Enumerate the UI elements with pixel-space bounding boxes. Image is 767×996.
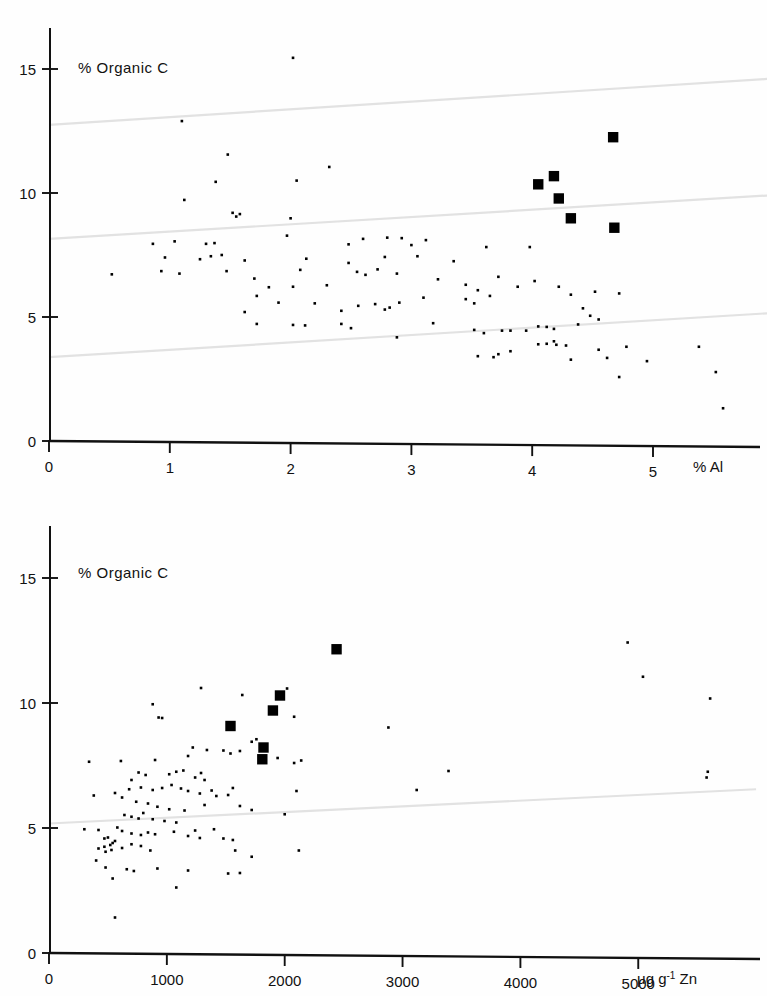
trend-line xyxy=(49,313,767,357)
data-point xyxy=(163,820,166,823)
data-point xyxy=(293,762,296,765)
data-point xyxy=(283,813,286,816)
data-point xyxy=(276,757,279,760)
data-point xyxy=(577,323,580,326)
data-point xyxy=(147,802,150,805)
data-point xyxy=(182,769,185,772)
data-point xyxy=(509,329,512,332)
x-tick-label: 2000 xyxy=(268,972,301,989)
data-point xyxy=(170,784,173,787)
data-point xyxy=(234,849,237,852)
data-point xyxy=(137,771,140,774)
data-point xyxy=(422,296,425,299)
data-point xyxy=(533,280,536,283)
data-point xyxy=(222,837,225,840)
data-point xyxy=(347,243,350,246)
highlighted-data-point xyxy=(549,171,559,181)
data-point xyxy=(103,845,106,848)
data-point xyxy=(213,828,216,831)
data-point xyxy=(210,789,213,792)
data-point xyxy=(116,826,119,829)
data-point xyxy=(642,675,645,678)
highlighted-data-point xyxy=(258,742,268,752)
data-point xyxy=(161,787,164,790)
data-point xyxy=(156,867,159,870)
data-point xyxy=(114,840,117,843)
data-point xyxy=(398,301,401,304)
data-point xyxy=(396,336,399,339)
data-point xyxy=(374,303,377,306)
figure-page: 051015 012345 % Organic C % Al 051015 01… xyxy=(0,0,767,996)
data-point xyxy=(152,243,155,246)
y-tick-label: 15 xyxy=(19,61,36,78)
data-point xyxy=(149,849,152,852)
data-point xyxy=(243,311,246,314)
data-point xyxy=(187,835,190,838)
data-point xyxy=(388,306,391,309)
data-point xyxy=(416,255,419,258)
data-point xyxy=(121,796,124,799)
data-point xyxy=(183,809,186,812)
data-point xyxy=(200,772,203,775)
data-point xyxy=(594,290,597,293)
x-tick-label: 5 xyxy=(649,463,657,480)
data-point xyxy=(646,360,649,363)
trend-line xyxy=(49,79,767,125)
data-point xyxy=(722,407,725,410)
data-point xyxy=(199,837,202,840)
data-point xyxy=(205,243,208,246)
x-tick-label: 0 xyxy=(45,970,53,987)
data-point xyxy=(123,814,126,817)
data-point xyxy=(298,849,301,852)
x-tick-label: 3000 xyxy=(386,973,419,990)
data-point xyxy=(292,324,295,327)
y-ticks-zn: 051015 xyxy=(19,570,58,962)
data-point xyxy=(103,837,106,840)
data-point xyxy=(111,842,114,845)
data-point xyxy=(376,268,379,271)
axes-zn xyxy=(50,526,760,959)
data-point xyxy=(305,257,308,260)
data-point xyxy=(130,815,133,818)
data-point xyxy=(553,340,556,343)
data-point xyxy=(156,805,159,808)
data-point xyxy=(597,318,600,321)
highlighted-data-point xyxy=(608,132,618,142)
x-axis-unit-label: μg g-1 Zn xyxy=(637,970,697,987)
trend-line xyxy=(49,789,756,823)
data-point xyxy=(477,289,480,292)
data-point xyxy=(243,259,246,262)
highlighted-data-point xyxy=(609,223,619,233)
data-point xyxy=(387,726,390,729)
data-point xyxy=(199,258,202,261)
data-point xyxy=(88,760,91,763)
data-point xyxy=(203,804,206,807)
data-point xyxy=(168,808,171,811)
data-point xyxy=(362,238,365,241)
highlighted-data-point xyxy=(225,721,235,731)
data-point xyxy=(175,770,178,773)
data-point xyxy=(107,836,110,839)
data-point xyxy=(175,886,178,889)
data-point xyxy=(227,872,230,875)
y-tick-label: 10 xyxy=(19,185,36,202)
data-point xyxy=(286,234,289,237)
x-tick-label: 1000 xyxy=(150,971,183,988)
data-point xyxy=(241,694,244,697)
data-point xyxy=(606,357,609,360)
data-point xyxy=(154,759,157,762)
data-point xyxy=(110,849,113,852)
data-point xyxy=(111,877,114,880)
data-point xyxy=(183,199,186,202)
data-dots-al xyxy=(111,57,725,410)
data-point xyxy=(340,310,343,313)
data-point xyxy=(537,343,540,346)
data-point xyxy=(326,284,329,287)
trend-lines-zn xyxy=(49,789,756,823)
data-point xyxy=(384,256,387,259)
x-tick-label: 4000 xyxy=(504,974,537,991)
data-point xyxy=(203,779,206,782)
data-point xyxy=(222,749,225,752)
data-point xyxy=(464,283,467,286)
highlighted-data-point xyxy=(268,705,278,715)
